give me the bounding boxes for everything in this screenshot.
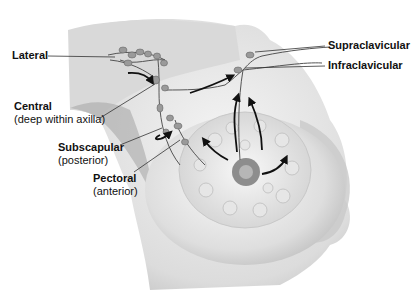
label-subscapular-note: (posterior) [58, 154, 124, 167]
label-central-name: Central [14, 100, 105, 113]
label-infraclavicular-name: Infraclavicular [328, 59, 403, 72]
nipple [239, 165, 253, 179]
label-pectoral-note: (anterior) [93, 185, 138, 198]
label-subscapular: Subscapular (posterior) [58, 141, 124, 167]
label-central: Central (deep within axilla) [14, 100, 105, 126]
label-central-note: (deep within axilla) [14, 113, 105, 126]
label-pectoral-name: Pectoral [93, 172, 138, 185]
label-lateral: Lateral [12, 49, 48, 62]
label-supraclavicular: Supraclavicular [328, 39, 410, 52]
label-subscapular-name: Subscapular [58, 141, 124, 154]
label-pectoral: Pectoral (anterior) [93, 172, 138, 198]
label-infraclavicular: Infraclavicular [328, 59, 403, 72]
label-supraclavicular-name: Supraclavicular [328, 39, 410, 52]
label-lateral-name: Lateral [12, 49, 48, 62]
